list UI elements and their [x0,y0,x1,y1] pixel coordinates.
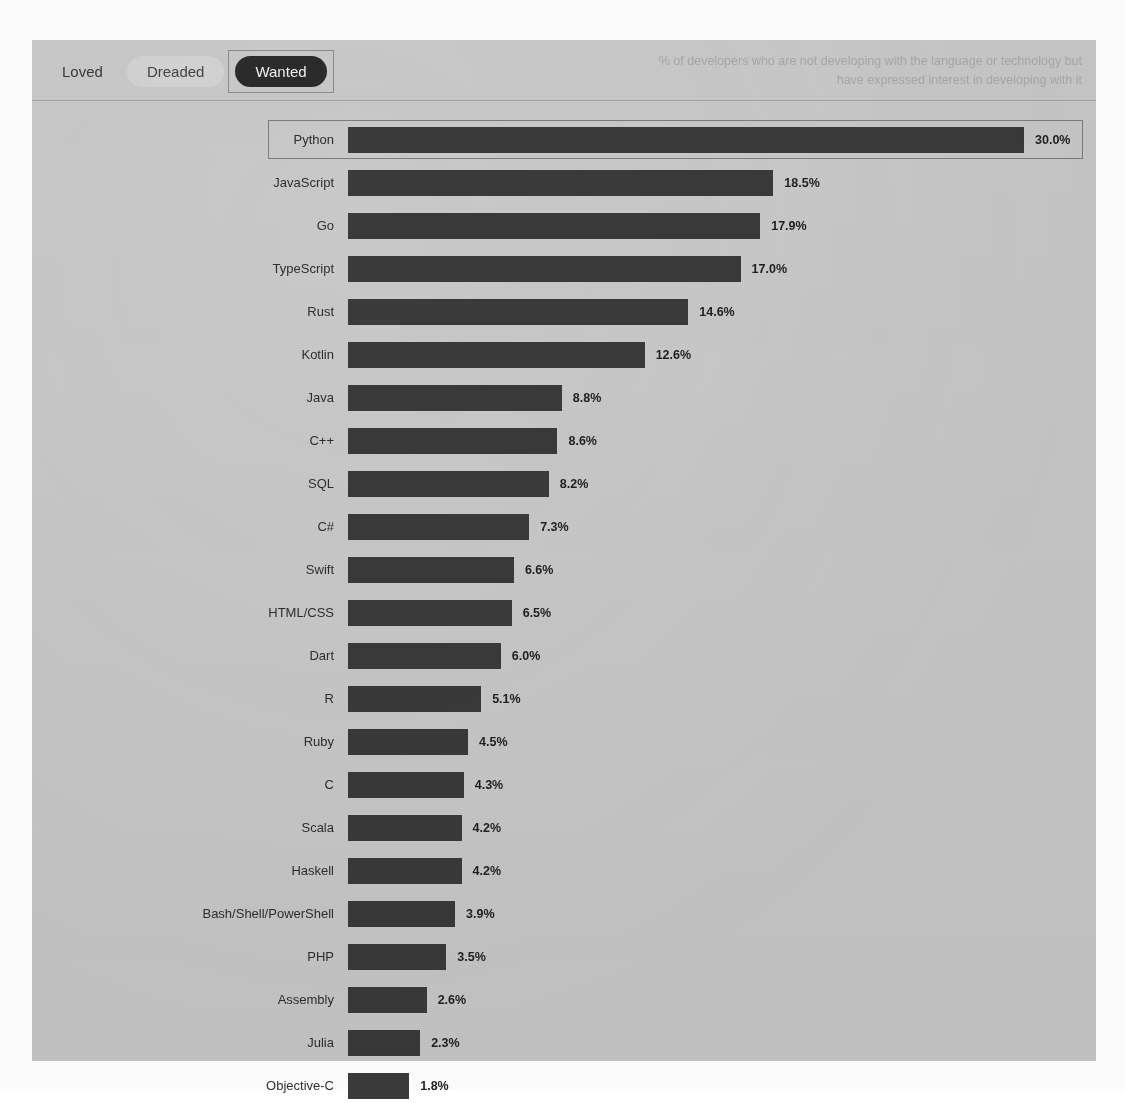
bar-area: 2.3% [348,1021,1096,1064]
bar-label: JavaScript [32,175,348,190]
bar-row[interactable]: Swift6.6% [32,548,1096,591]
bar-area: 6.6% [348,548,1096,591]
bar-area: 4.5% [348,720,1096,763]
bar-row[interactable]: Rust14.6% [32,290,1096,333]
bar-label: Java [32,390,348,405]
bar-area: 4.2% [348,849,1096,892]
chart-panel: LovedDreadedWanted % of developers who a… [32,40,1096,1061]
bar-row[interactable]: Objective-C1.8% [32,1064,1096,1103]
bar [348,1030,420,1056]
bar-value-label: 2.6% [438,993,467,1007]
bar-area: 17.0% [348,247,1096,290]
bar-label: PHP [32,949,348,964]
bar-label: Scala [32,820,348,835]
bar-row[interactable]: Ruby4.5% [32,720,1096,763]
bar-row[interactable]: PHP3.5% [32,935,1096,978]
bar-area: 3.9% [348,892,1096,935]
bar-area: 2.6% [348,978,1096,1021]
bar-row[interactable]: Java8.8% [32,376,1096,419]
bar-label: Swift [32,562,348,577]
bar [348,987,427,1013]
bar-row[interactable]: C4.3% [32,763,1096,806]
bar-area: 1.8% [348,1064,1096,1103]
toggle-wanted[interactable]: Wanted [235,56,326,87]
bar-row[interactable]: Bash/Shell/PowerShell3.9% [32,892,1096,935]
bar-area: 7.3% [348,505,1096,548]
header-divider [32,100,1096,101]
bar [348,858,462,884]
bar-area: 4.3% [348,763,1096,806]
bar [348,815,462,841]
bar-value-label: 17.9% [771,219,806,233]
bar-label: C# [32,519,348,534]
bar [348,600,512,626]
bar [348,944,446,970]
bar-row[interactable]: SQL8.2% [32,462,1096,505]
bar-row[interactable]: Dart6.0% [32,634,1096,677]
bar [348,686,481,712]
bar-value-label: 4.5% [479,735,508,749]
bar [348,901,455,927]
bar-row[interactable]: HTML/CSS6.5% [32,591,1096,634]
bar-value-label: 8.6% [568,434,597,448]
bar-label: Bash/Shell/PowerShell [32,906,348,921]
bar-row[interactable]: Go17.9% [32,204,1096,247]
bar-value-label: 5.1% [492,692,521,706]
bar [348,170,773,196]
bar-label: Julia [32,1035,348,1050]
bar-row[interactable]: Kotlin12.6% [32,333,1096,376]
bar-area: 8.6% [348,419,1096,462]
bar-value-label: 18.5% [784,176,819,190]
bar-value-label: 6.6% [525,563,554,577]
bar-area: 4.2% [348,806,1096,849]
sentiment-toggle-group[interactable]: LovedDreadedWanted [42,50,334,93]
bar [348,729,468,755]
bar [348,299,688,325]
bar-row[interactable]: C#7.3% [32,505,1096,548]
bar-area: 8.2% [348,462,1096,505]
bar-label: SQL [32,476,348,491]
toggle-focus-ring: Wanted [228,50,333,93]
bar-area: 17.9% [348,204,1096,247]
bar-area: 12.6% [348,333,1096,376]
bar-label: R [32,691,348,706]
bar-area: 8.8% [348,376,1096,419]
bar-row[interactable]: Python30.0% [32,118,1096,161]
bar-label: Assembly [32,992,348,1007]
bar-value-label: 8.2% [560,477,589,491]
bar-value-label: 7.3% [540,520,569,534]
bar-value-label: 17.0% [752,262,787,276]
bar-value-label: 4.3% [475,778,504,792]
bar-label: HTML/CSS [32,605,348,620]
bar [348,213,760,239]
bar-row[interactable]: Assembly2.6% [32,978,1096,1021]
bar-value-label: 30.0% [1035,133,1070,147]
toggle-dreaded[interactable]: Dreaded [127,56,225,87]
bar-label: Python [32,132,348,147]
bar [348,256,741,282]
bar-area: 30.0% [348,118,1096,161]
bar-row[interactable]: Haskell4.2% [32,849,1096,892]
bar-row[interactable]: C++8.6% [32,419,1096,462]
bar-value-label: 8.8% [573,391,602,405]
bar-value-label: 4.2% [473,864,502,878]
chart-caption: % of developers who are not developing w… [642,52,1082,91]
bar-row[interactable]: Scala4.2% [32,806,1096,849]
bar-label: Go [32,218,348,233]
bar [348,342,645,368]
bar-row[interactable]: TypeScript17.0% [32,247,1096,290]
bar-label: C [32,777,348,792]
bar [348,471,549,497]
toggle-loved[interactable]: Loved [42,56,123,87]
bar-area: 6.5% [348,591,1096,634]
bar-label: Rust [32,304,348,319]
bar-row[interactable]: JavaScript18.5% [32,161,1096,204]
bar-label: Objective-C [32,1078,348,1093]
bar [348,1073,409,1099]
bar [348,385,562,411]
bar-row[interactable]: R5.1% [32,677,1096,720]
bar-row[interactable]: Julia2.3% [32,1021,1096,1064]
bar-value-label: 12.6% [656,348,691,362]
bar-label: C++ [32,433,348,448]
